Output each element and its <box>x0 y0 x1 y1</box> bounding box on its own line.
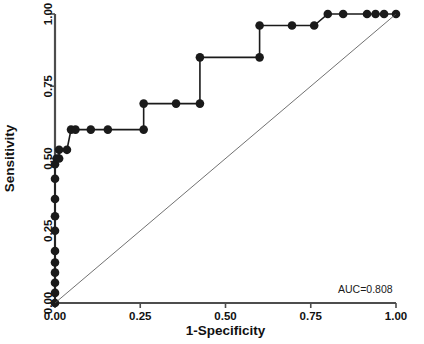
x-tick-label: 0.75 <box>300 310 323 322</box>
plot-layer: 0.000.250.500.751.000.000.250.500.751.00… <box>2 3 407 338</box>
roc-data-point <box>51 268 60 277</box>
roc-data-point <box>51 247 60 256</box>
roc-data-point <box>324 10 333 19</box>
x-tick-label: 1.00 <box>385 310 407 322</box>
roc-data-point <box>51 174 60 183</box>
roc-data-point <box>172 99 181 108</box>
roc-data-point <box>139 125 148 134</box>
roc-data-point <box>196 99 205 108</box>
roc-data-point <box>51 226 60 235</box>
roc-data-point <box>139 99 148 108</box>
auc-label: AUC=0.808 <box>338 283 393 295</box>
roc-data-point <box>310 21 319 30</box>
roc-data-point <box>51 195 60 204</box>
roc-data-point <box>255 21 264 30</box>
roc-data-point <box>51 258 60 267</box>
roc-data-point <box>288 21 297 30</box>
roc-data-point <box>51 212 60 221</box>
roc-data-point <box>339 10 348 19</box>
roc-data-point <box>51 289 60 298</box>
x-tick-label: 0.25 <box>129 310 152 322</box>
roc-data-point <box>371 10 380 19</box>
roc-data-point <box>196 53 205 62</box>
roc-plot-svg: 0.000.250.500.751.000.000.250.500.751.00… <box>0 0 424 344</box>
roc-chart: 0.000.250.500.751.000.000.250.500.751.00… <box>0 0 424 344</box>
y-tick-label: 0.75 <box>42 74 54 97</box>
roc-data-point <box>55 146 64 155</box>
roc-data-point <box>255 53 264 62</box>
roc-data-point <box>363 10 372 19</box>
roc-data-point <box>87 125 96 134</box>
roc-data-point <box>380 10 389 19</box>
roc-data-point <box>51 278 60 287</box>
x-axis-title: 1-Specificity <box>186 323 266 338</box>
y-axis-title: Sensitivity <box>2 124 17 192</box>
y-tick-label: 1.00 <box>42 3 54 25</box>
roc-data-point <box>63 146 72 155</box>
roc-data-point <box>104 125 113 134</box>
roc-data-point <box>71 125 80 134</box>
x-tick-label: 0.50 <box>214 310 236 322</box>
roc-data-point <box>55 154 64 163</box>
